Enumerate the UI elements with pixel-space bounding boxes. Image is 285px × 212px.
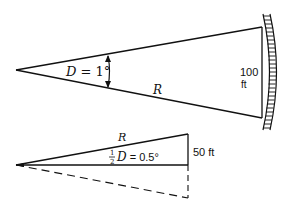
top-angle-value: = 1° xyxy=(76,64,110,79)
arrowhead-up-icon xyxy=(105,55,111,62)
svg-text:D = 1°: D = 1° xyxy=(65,64,110,79)
curve-deflection-diagram: D = 1° R 100 ft R 1 2 D = 0.5° 50 ft xyxy=(0,0,285,212)
bottom-radius-label: R xyxy=(117,131,126,144)
bottom-figure: R 1 2 D = 0.5° 50 ft xyxy=(16,131,214,198)
bottom-radius-line xyxy=(16,134,188,165)
half-denominator: 2 xyxy=(110,158,114,166)
bottom-angle-var: D xyxy=(116,150,127,164)
chord-length-value: 100 xyxy=(240,66,258,78)
half-chord-label: 50 ft xyxy=(193,146,214,158)
dashed-mirror-radius xyxy=(16,165,188,198)
svg-text:D = 0.5°: D = 0.5° xyxy=(116,150,159,164)
bottom-angle-value: = 0.5° xyxy=(127,151,159,163)
half-numerator: 1 xyxy=(110,149,114,157)
top-figure: D = 1° R 100 ft xyxy=(16,14,277,130)
chord-length-unit: ft xyxy=(241,79,247,90)
top-upper-radius-line xyxy=(16,27,262,70)
top-radius-label: R xyxy=(152,83,162,97)
top-lower-radius-line xyxy=(16,70,262,118)
curve-arc xyxy=(263,14,270,130)
top-angle-var: D xyxy=(65,64,77,79)
